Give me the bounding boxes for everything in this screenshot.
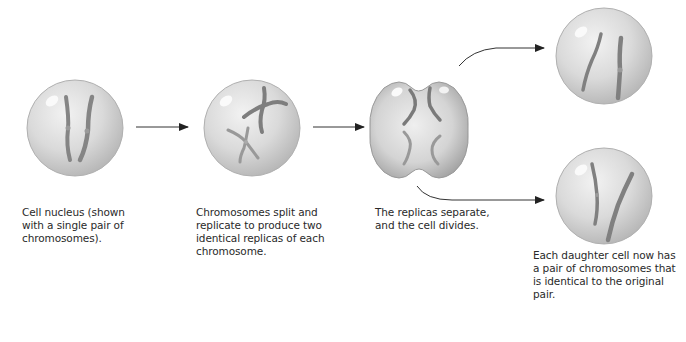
arrow-to-top-daughter	[459, 48, 544, 66]
caption-nucleus: Cell nucleus (shown with a single pair o…	[22, 206, 125, 245]
caption-daughters: Each daughter cell now has a pair of chr…	[533, 249, 676, 301]
caption-replicate: Chromosomes split and replicate to produ…	[196, 206, 324, 258]
arrow-to-bottom-daughter	[417, 186, 544, 200]
daughter-cell-top	[556, 8, 652, 104]
cell-replicating	[204, 80, 300, 176]
mitosis-diagram: Cell nucleus (shown with a single pair o…	[0, 0, 686, 342]
daughter-cell-bottom	[556, 148, 652, 244]
cell-nucleus	[27, 80, 123, 176]
cell-dividing	[370, 82, 468, 178]
caption-separate: The replicas separate, and the cell divi…	[375, 206, 489, 232]
